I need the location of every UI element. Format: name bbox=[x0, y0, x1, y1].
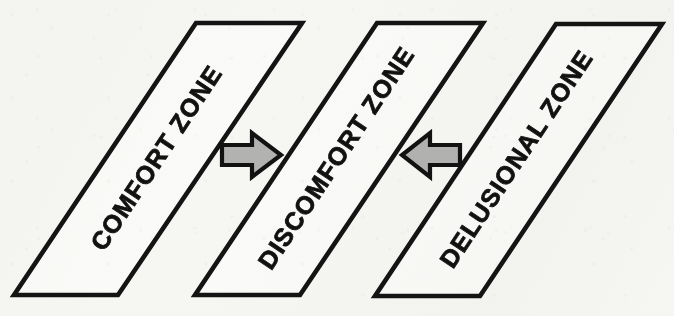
arrow-right-glyph[interactable] bbox=[222, 133, 281, 177]
arrow-right-icon[interactable] bbox=[222, 133, 281, 177]
zones-diagram: COMFORT ZONE DISCOMFORT ZONE DELUSIONAL … bbox=[0, 0, 674, 316]
arrow-left-glyph[interactable] bbox=[402, 133, 460, 177]
arrow-left-icon[interactable] bbox=[402, 133, 460, 177]
diagram-canvas: COMFORT ZONE DISCOMFORT ZONE DELUSIONAL … bbox=[0, 0, 674, 316]
